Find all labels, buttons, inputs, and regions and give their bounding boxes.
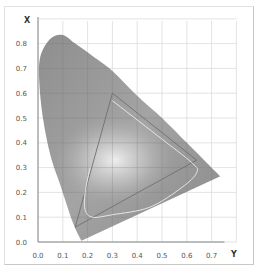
chromaticity-chart: 0.00.10.20.30.40.50.60.70.00.10.20.30.40…: [0, 0, 270, 277]
y-tick-label: 0.2: [16, 189, 27, 197]
y-tick-label: 0.4: [16, 139, 28, 147]
x-tick-label: 0.6: [181, 252, 193, 260]
x-tick-label: 0.1: [57, 252, 68, 260]
y-tick-label: 0.1: [16, 214, 27, 222]
x-tick-label: 0.5: [156, 252, 167, 260]
x-axis-name: Y: [230, 250, 237, 259]
y-tick-label: 0.8: [16, 40, 27, 48]
x-tick-label: 0.7: [206, 252, 217, 260]
x-tick-label: 0.0: [32, 252, 43, 260]
x-tick-label: 0.4: [132, 252, 144, 260]
x-tick-label: 0.3: [107, 252, 118, 260]
y-tick-label: 0.5: [16, 115, 27, 123]
y-tick-label: 0.3: [16, 164, 27, 172]
y-tick-label: 0.7: [16, 65, 27, 73]
y-axis-name: X: [24, 16, 31, 25]
x-tick-label: 0.2: [82, 252, 93, 260]
y-tick-label: 0.0: [16, 239, 27, 247]
spectral-locus-region: [39, 35, 220, 241]
y-tick-label: 0.6: [16, 90, 28, 98]
